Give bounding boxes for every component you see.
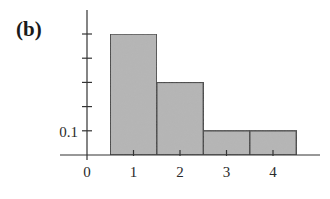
bar-1: [110, 34, 157, 155]
x-tick-label: 4: [269, 164, 277, 180]
x-tick-label: 0: [83, 164, 91, 180]
bar-chart: (b) 01234 0.1: [0, 0, 330, 199]
panel-label: (b): [16, 17, 42, 41]
x-tick-label: 1: [130, 164, 138, 180]
y-tick-label: 0.1: [59, 124, 78, 140]
bar-2: [157, 82, 204, 155]
bars: [110, 34, 296, 155]
x-tick-label: 3: [223, 164, 231, 180]
x-tick-label: 2: [176, 164, 184, 180]
